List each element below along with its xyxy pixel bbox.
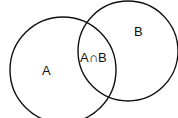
intersection-label: A∩B xyxy=(80,50,107,65)
set-b-label: B xyxy=(134,24,143,39)
set-a-circle xyxy=(10,17,116,118)
venn-diagram: A B A∩B xyxy=(0,0,178,118)
set-a-label: A xyxy=(42,63,51,78)
venn-svg: A B A∩B xyxy=(0,0,178,118)
